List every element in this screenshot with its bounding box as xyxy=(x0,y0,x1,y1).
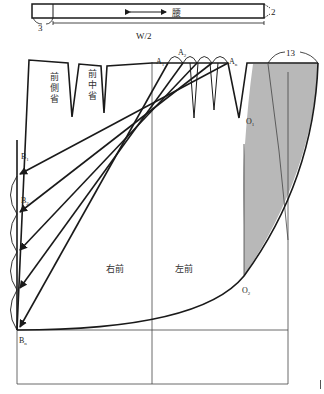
label-An: An xyxy=(229,57,238,67)
a-arcs xyxy=(168,57,228,64)
side-dart-label-2: 側 xyxy=(50,82,59,93)
width-label: W/2 xyxy=(136,31,152,41)
label-O2: O2 xyxy=(242,286,251,296)
label-A2: A2 xyxy=(178,48,187,58)
middle-dart-label-1: 前 xyxy=(88,68,97,79)
right-front-label: 右前 xyxy=(106,263,124,274)
measure-label: 13 xyxy=(286,48,296,58)
waistband-label: 腰 xyxy=(172,8,181,18)
right-allowance-label: 2 xyxy=(271,7,276,17)
label-Bn: Bn xyxy=(19,336,27,346)
label-B1: B1 xyxy=(21,152,29,162)
cropped-edge-mark xyxy=(320,380,321,389)
side-dart-label-3: 省 xyxy=(50,93,59,104)
svg-text:前 側 省: 前 側 省 xyxy=(50,71,62,104)
left-front-label: 左前 xyxy=(175,263,193,274)
middle-dart-label-2: 中 xyxy=(88,79,97,90)
extension-label: 3 xyxy=(38,23,43,33)
b-arcs xyxy=(11,176,18,330)
svg-text:前 中 省: 前 中 省 xyxy=(88,68,100,101)
waistband: 腰 3 2 W/2 xyxy=(32,4,276,41)
skirt-pattern-diagram: 腰 3 2 W/2 xyxy=(0,0,324,394)
label-A1: A1 xyxy=(156,57,165,67)
shaded-panel xyxy=(243,63,318,276)
middle-dart-label-3: 省 xyxy=(88,90,97,101)
label-B2: B2 xyxy=(21,196,29,206)
side-dart-label-1: 前 xyxy=(50,71,59,82)
